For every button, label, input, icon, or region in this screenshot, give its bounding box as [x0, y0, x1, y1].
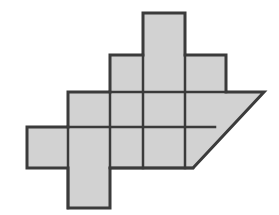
polyomino-figure: Shaded polyomino figure with diagonal cu… [0, 0, 279, 215]
figure-canvas: Shaded polyomino figure with diagonal cu… [0, 0, 279, 215]
